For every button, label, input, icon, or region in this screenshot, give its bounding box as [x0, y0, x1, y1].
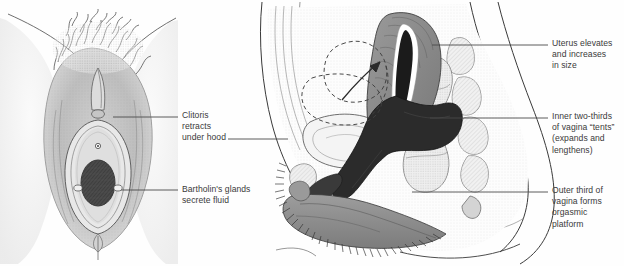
label-clitoris-retracts: Clitoris retracts under hood — [182, 110, 226, 144]
label-bartholins-glands: Bartholin's glands secrete fluid — [182, 184, 250, 206]
label-outer-third-vagina: Outer third of vagina forms orgasmic pla… — [552, 185, 603, 230]
anatomy-figure: Clitoris retracts under hood Bartholin's… — [0, 0, 624, 266]
bartholin-gland-left — [74, 185, 82, 191]
label-inner-two-thirds-vagina: Inner two-thirds of vagina “tents” (expa… — [552, 111, 614, 156]
figure-artwork — [0, 0, 624, 266]
clitoris-glans — [92, 110, 105, 118]
pelvic-sagittal-drawing — [260, 2, 554, 264]
external-genitalia-drawing — [0, 9, 178, 264]
bartholin-gland-right — [114, 185, 122, 191]
label-uterus-elevates: Uterus elevates and increases in size — [552, 38, 612, 72]
